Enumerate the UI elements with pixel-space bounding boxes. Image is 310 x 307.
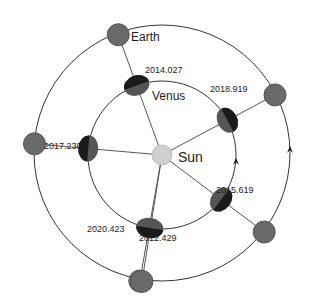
conjunction-date-label: 2017.230 (44, 141, 82, 151)
earth-marker (107, 24, 129, 46)
earth-marker (131, 270, 153, 292)
sun-icon (152, 145, 172, 165)
conjunction-date-label: 2015.619 (216, 185, 254, 195)
earth-label: Earth (131, 30, 160, 44)
venus-orbit-direction-arrow (233, 158, 239, 165)
venus-marker (212, 104, 242, 136)
sun-label: Sun (178, 149, 203, 165)
conjunction-date-label: 2014.027 (145, 65, 183, 75)
conjunction-date-label: 2012.429 (139, 233, 177, 243)
venus-label: Venus (152, 89, 185, 103)
venus-marker (121, 72, 152, 100)
earth-marker (253, 221, 275, 243)
earth-marker (264, 84, 286, 106)
earth-marker (23, 133, 45, 155)
conjunction-date-label: 2018.919 (210, 84, 248, 94)
conjunction-date-label: 2020.423 (87, 224, 125, 234)
orbit-diagram: Sun Venus Earth 2012.4292014.0272015.619… (0, 0, 310, 307)
